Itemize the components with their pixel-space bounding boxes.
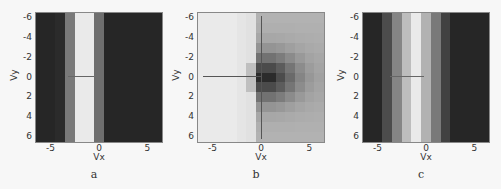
heatmap-column xyxy=(133,13,143,142)
panel-caption: a xyxy=(91,168,98,181)
heatmap-cell xyxy=(314,73,324,83)
heatmap-cell xyxy=(285,73,295,83)
heatmap-cell xyxy=(285,102,295,112)
heatmap-cell xyxy=(208,112,218,122)
heatmap-cell xyxy=(295,23,305,33)
heatmap-cell xyxy=(295,112,305,122)
heatmap-cell xyxy=(227,112,237,122)
heatmap-cell xyxy=(198,82,208,92)
heatmap-cell xyxy=(276,73,286,83)
y-tick-label: 4 xyxy=(345,111,359,121)
heatmap-cell xyxy=(198,102,208,112)
heatmap-cell xyxy=(295,43,305,53)
heatmap-cell xyxy=(237,63,247,73)
heatmap-cell xyxy=(227,13,237,23)
heatmap-cell xyxy=(217,53,227,63)
heatmap-cell xyxy=(246,82,256,92)
heatmap-cell xyxy=(198,13,208,23)
x-axis-label: Vx xyxy=(255,152,266,162)
heatmap-column xyxy=(104,13,114,142)
heatmap-cell xyxy=(285,43,295,53)
y-tick-label: -6 xyxy=(18,12,32,22)
heatmap-cell xyxy=(305,23,315,33)
heatmap-cell xyxy=(314,23,324,33)
heatmap-cell xyxy=(314,122,324,132)
y-tick-label: -4 xyxy=(180,32,194,42)
heatmap-a xyxy=(35,12,163,143)
heatmap-cell xyxy=(246,92,256,102)
heatmap-cell xyxy=(246,43,256,53)
heatmap-cell xyxy=(227,122,237,132)
heatmap-column xyxy=(450,13,460,142)
y-tick-label: 2 xyxy=(180,91,194,101)
heatmap-cell xyxy=(276,43,286,53)
heatmap-cell xyxy=(246,102,256,112)
y-tick-label: 6 xyxy=(18,131,32,141)
heatmap-cell xyxy=(227,63,237,73)
heatmap-cell xyxy=(227,132,237,142)
heatmap-cell xyxy=(305,63,315,73)
heatmap-cell xyxy=(208,102,218,112)
heatmap-cell xyxy=(266,132,276,142)
heatmap-cell xyxy=(237,122,247,132)
heatmap-cell xyxy=(276,23,286,33)
heatmap-column xyxy=(55,13,65,142)
heatmap-cell xyxy=(246,112,256,122)
heatmap-cell xyxy=(198,132,208,142)
heatmap-cell xyxy=(285,13,295,23)
heatmap-cell xyxy=(227,33,237,43)
heatmap-column xyxy=(94,13,104,142)
heatmap-cell xyxy=(208,92,218,102)
heatmap-cell xyxy=(266,122,276,132)
heatmap-cell xyxy=(227,92,237,102)
heatmap-cell xyxy=(266,23,276,33)
y-axis-label: Vy xyxy=(336,69,346,80)
heatmap-cell xyxy=(266,63,276,73)
heatmap-cell xyxy=(198,112,208,122)
heatmap-cell xyxy=(295,73,305,83)
heatmap-cell xyxy=(276,82,286,92)
heatmap-cell xyxy=(305,33,315,43)
heatmap-cell xyxy=(314,82,324,92)
y-tick-label: -2 xyxy=(18,52,32,62)
heatmap-column xyxy=(36,13,46,142)
heatmap-cell xyxy=(217,43,227,53)
heatmap-cell xyxy=(276,112,286,122)
heatmap-cell xyxy=(276,53,286,63)
heatmap-cell xyxy=(285,122,295,132)
heatmap-cell xyxy=(305,122,315,132)
heatmap-cell xyxy=(246,63,256,73)
heatmap-cell xyxy=(217,102,227,112)
x-tick-label: 5 xyxy=(145,143,151,153)
heatmap-cell xyxy=(198,92,208,102)
heatmap-cell xyxy=(237,53,247,63)
x-axis-label: Vx xyxy=(93,152,104,162)
heatmap-cell xyxy=(198,122,208,132)
heatmap-cell xyxy=(285,92,295,102)
heatmap-cell xyxy=(208,122,218,132)
heatmap-column xyxy=(46,13,56,142)
heatmap-cell xyxy=(266,53,276,63)
heatmap-cell xyxy=(305,13,315,23)
heatmap-cell xyxy=(276,92,286,102)
y-tick-label: -4 xyxy=(345,32,359,42)
heatmap-column xyxy=(411,13,421,142)
heatmap-cell xyxy=(237,102,247,112)
heatmap-cell xyxy=(314,13,324,23)
heatmap-cell xyxy=(314,92,324,102)
x-tick-label: -5 xyxy=(373,143,382,153)
heatmap-cell xyxy=(266,73,276,83)
heatmap-cell xyxy=(266,92,276,102)
heatmap-cell xyxy=(208,23,218,33)
heatmap-column xyxy=(143,13,153,142)
heatmap-cell xyxy=(276,33,286,43)
heatmap-cell xyxy=(314,53,324,63)
heatmap-column xyxy=(75,13,85,142)
x-tick-label: -5 xyxy=(208,143,217,153)
heatmap-column xyxy=(84,13,94,142)
y-axis-label: Vy xyxy=(9,69,19,80)
heatmap-cell xyxy=(237,73,247,83)
y-tick-label: 4 xyxy=(180,111,194,121)
heatmap-cell xyxy=(266,102,276,112)
heatmap-cell xyxy=(227,23,237,33)
